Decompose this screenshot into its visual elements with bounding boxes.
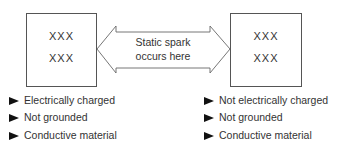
property-text: Not grounded [219, 111, 283, 123]
property-text: Conductive material [24, 129, 117, 141]
property-text: Electrically charged [24, 94, 115, 106]
property-text: Not electrically charged [219, 94, 328, 106]
list-item: Conductive material [9, 128, 117, 142]
list-item: Not grounded [9, 110, 88, 124]
bullet-triangle-icon [204, 132, 214, 140]
double-arrow-icon [0, 0, 343, 147]
list-item: Not grounded [204, 110, 283, 124]
list-item: Electrically charged [9, 93, 115, 107]
spark-label-line1: Static spark [116, 35, 210, 49]
spark-label-line2: occurs here [116, 49, 210, 63]
list-item: Conductive material [204, 128, 312, 142]
spark-label: Static spark occurs here [116, 35, 210, 63]
bullet-triangle-icon [9, 114, 19, 122]
list-item: Not electrically charged [204, 93, 328, 107]
bullet-triangle-icon [204, 97, 214, 105]
bullet-triangle-icon [204, 114, 214, 122]
bullet-triangle-icon [9, 132, 19, 140]
bullet-triangle-icon [9, 97, 19, 105]
property-text: Conductive material [219, 129, 312, 141]
property-text: Not grounded [24, 111, 88, 123]
